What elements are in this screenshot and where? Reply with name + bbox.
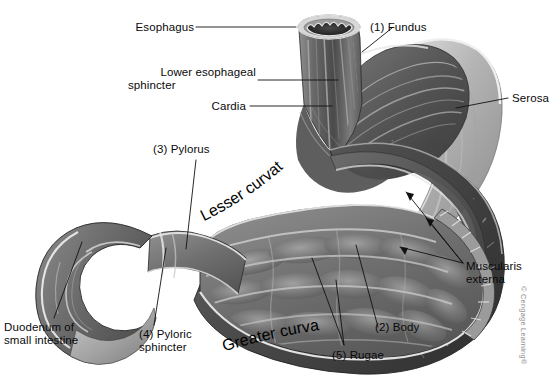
label-pyloric-sphincter-line1: (4) Pyloric	[139, 328, 192, 341]
label-fundus: (1) Fundus	[370, 21, 427, 34]
label-duodenum-line2: small intestine	[4, 334, 78, 347]
label-muscularis-externa-line1: Muscularis	[466, 260, 522, 273]
label-rugae: (5) Rugae	[332, 349, 384, 362]
label-cardia: Cardia	[180, 100, 246, 113]
stomach-illustration: Lesser curvature Greater curvature	[0, 0, 556, 383]
stomach-anatomy-figure: Lesser curvature Greater curvature Esoph…	[0, 0, 556, 383]
label-pyloric-sphincter-line2: sphincter	[139, 341, 187, 354]
copyright-notice: © Cengage Learning®	[516, 286, 528, 376]
label-muscularis-externa-line2: externa	[466, 273, 505, 286]
label-lower-esophageal-sphincter-line1: Lower esophageal	[128, 66, 256, 79]
label-esophagus: Esophagus	[108, 21, 194, 34]
label-pylorus: (3) Pylorus	[153, 143, 210, 156]
label-serosa: Serosa	[512, 92, 549, 105]
label-lower-esophageal-sphincter-line2: sphincter	[128, 79, 176, 92]
label-body: (2) Body	[375, 321, 419, 334]
label-duodenum-line1: Duodenum of	[4, 321, 74, 334]
